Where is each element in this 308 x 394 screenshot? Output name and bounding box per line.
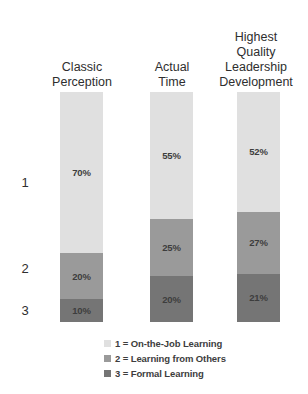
bar-segment-label: 21% — [249, 292, 267, 303]
legend-item-label: 3 = Formal Learning — [115, 368, 204, 379]
bar-segment: 27% — [237, 212, 280, 274]
bar-segment-label: 55% — [162, 150, 180, 161]
row-label-2: 2 — [14, 261, 36, 276]
column-title-actual-time: Actual Time — [128, 60, 216, 90]
bar-segment: 21% — [237, 274, 280, 322]
column-title-line: Leadership — [206, 60, 306, 75]
legend-item-formal-learning: 3 = Formal Learning — [104, 366, 226, 381]
bar-segment-label: 20% — [72, 271, 90, 282]
legend-item-label: 2 = Learning from Others — [115, 353, 226, 364]
bar-column-actual-time: 55% 25% 20% — [150, 92, 193, 322]
bar-segment-label: 52% — [249, 146, 267, 157]
column-title-line: Classic — [30, 60, 134, 75]
row-label-1: 1 — [14, 175, 36, 190]
bar-segment-label: 70% — [72, 167, 90, 178]
bar-segment-label: 25% — [162, 242, 180, 253]
bar-segment-label: 10% — [72, 305, 90, 316]
bar-segment: 25% — [150, 219, 193, 277]
legend-item-on-the-job-learning: 1 = On-the-Job Learning — [104, 336, 226, 351]
bar-column-highest-quality-leadership-development: 52% 27% 21% — [237, 92, 280, 322]
bar-segment: 20% — [150, 276, 193, 322]
legend-swatch-icon — [104, 355, 111, 362]
bar-segment-label: 20% — [162, 294, 180, 305]
bar-segment: 10% — [60, 299, 103, 322]
row-label-3: 3 — [14, 303, 36, 318]
legend-item-learning-from-others: 2 = Learning from Others — [104, 351, 226, 366]
bar-segment: 20% — [60, 253, 103, 299]
column-title-line: Time — [128, 75, 216, 90]
column-title-line: Perception — [30, 75, 134, 90]
chart-legend: 1 = On-the-Job Learning 2 = Learning fro… — [104, 336, 226, 381]
bar-segment-label: 27% — [249, 237, 267, 248]
bar-segment: 70% — [60, 92, 103, 253]
legend-swatch-icon — [104, 340, 111, 347]
legend-swatch-icon — [104, 370, 111, 377]
stacked-bar-chart: Classic Perception Actual Time Highest Q… — [0, 0, 308, 394]
legend-item-label: 1 = On-the-Job Learning — [115, 338, 222, 349]
column-title-line: Quality — [206, 45, 306, 60]
bar-column-classic-perception: 70% 20% 10% — [60, 92, 103, 322]
column-title-line: Highest — [206, 30, 306, 45]
bar-segment: 52% — [237, 92, 280, 212]
column-title-line: Actual — [128, 60, 216, 75]
column-title-highest-quality-leadership-development: Highest Quality Leadership Development — [206, 30, 306, 90]
bar-segment: 55% — [150, 92, 193, 219]
column-title-line: Development — [206, 75, 306, 90]
column-title-classic-perception: Classic Perception — [30, 60, 134, 90]
